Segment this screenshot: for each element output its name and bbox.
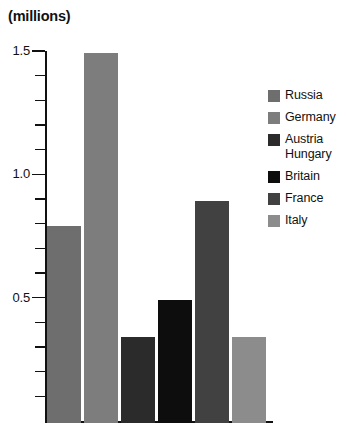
- legend-item-label: Russia: [285, 88, 323, 103]
- legend-item-label: Britain: [285, 169, 320, 184]
- bar: [121, 337, 155, 423]
- y-axis-minor-tick: [35, 248, 45, 250]
- y-axis-minor-tick: [35, 100, 45, 102]
- chart-legend: RussiaGermanyAustria HungaryBritainFranc…: [268, 88, 347, 235]
- y-axis-minor-tick: [35, 198, 45, 200]
- y-axis-major-tick: [32, 50, 45, 52]
- y-axis-tick-label: 1.0: [13, 166, 30, 181]
- y-axis-minor-tick: [35, 124, 45, 126]
- legend-swatch-icon: [268, 171, 280, 183]
- y-axis-minor-tick: [35, 75, 45, 77]
- plot-area: [46, 50, 272, 423]
- y-axis-minor-tick: [35, 346, 45, 348]
- legend-item[interactable]: Germany: [268, 110, 347, 125]
- y-axis-major-tick: [32, 174, 45, 176]
- chart-title: (millions): [8, 8, 70, 24]
- bar: [158, 300, 192, 423]
- legend-swatch-icon: [268, 134, 280, 146]
- legend-item[interactable]: Russia: [268, 88, 347, 103]
- bar: [232, 337, 266, 423]
- legend-item[interactable]: Austria Hungary: [268, 132, 347, 162]
- legend-item-label: France: [285, 191, 323, 206]
- y-axis-minor-tick: [35, 371, 45, 373]
- y-axis-major-tick: [32, 297, 45, 299]
- legend-item[interactable]: Britain: [268, 169, 347, 184]
- legend-item-label: Germany: [285, 110, 336, 125]
- y-axis-minor-tick: [35, 322, 45, 324]
- y-axis-minor-tick: [35, 149, 45, 151]
- legend-swatch-icon: [268, 112, 280, 124]
- bar-chart: (millions) 1.51.00.5 RussiaGermanyAustri…: [0, 0, 347, 435]
- legend-item[interactable]: France: [268, 191, 347, 206]
- bar: [84, 53, 118, 423]
- legend-swatch-icon: [268, 90, 280, 102]
- bar: [195, 201, 229, 423]
- legend-item-label: Italy: [285, 213, 307, 228]
- y-axis-tick-label: 1.5: [13, 43, 30, 58]
- y-axis-minor-tick: [35, 223, 45, 225]
- legend-item-label: Austria Hungary: [285, 132, 332, 162]
- bar: [47, 226, 81, 423]
- y-axis-minor-tick: [35, 272, 45, 274]
- y-axis-minor-tick: [35, 396, 45, 398]
- legend-item[interactable]: Italy: [268, 213, 347, 228]
- y-axis-tick-label: 0.5: [13, 290, 30, 305]
- legend-swatch-icon: [268, 215, 280, 227]
- legend-swatch-icon: [268, 193, 280, 205]
